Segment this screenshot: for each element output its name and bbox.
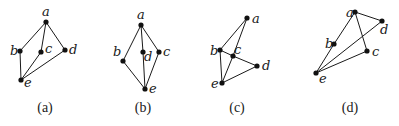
- node-label-c: c: [163, 44, 171, 59]
- node-b: [120, 58, 125, 63]
- node-a: [244, 15, 249, 20]
- node-label-e: e: [24, 75, 32, 90]
- edge-c-d: [233, 56, 257, 66]
- node-e: [142, 86, 147, 91]
- diagram-b: abdce(b): [113, 7, 171, 116]
- node-label-d: d: [69, 42, 77, 57]
- node-label-b: b: [10, 43, 18, 58]
- edge-b-e: [123, 61, 145, 89]
- node-label-a: a: [346, 5, 354, 20]
- node-label-e: e: [211, 76, 219, 91]
- hasse-diagrams-canvas: abcde(a) abdce(b) abcde(c) adbce(d): [0, 0, 399, 126]
- node-label-a: a: [252, 11, 260, 26]
- node-a: [138, 22, 143, 27]
- node-c: [364, 48, 369, 53]
- edge-b-e: [220, 50, 222, 83]
- node-label-e: e: [149, 81, 157, 96]
- node-label-d: d: [380, 22, 388, 37]
- edge-b-e: [20, 51, 21, 80]
- edge-a-d: [141, 25, 143, 52]
- caption-a: (a): [37, 100, 53, 116]
- node-label-b: b: [210, 43, 218, 58]
- node-label-a: a: [42, 4, 50, 19]
- node-e: [18, 77, 23, 82]
- node-c: [156, 49, 161, 54]
- edge-a-d: [355, 12, 382, 21]
- caption-c: (c): [229, 100, 245, 116]
- edge-d-e: [222, 66, 257, 83]
- node-d: [254, 63, 259, 68]
- node-label-d: d: [144, 49, 152, 64]
- node-label-b: b: [113, 44, 121, 59]
- node-e: [219, 80, 224, 85]
- node-e: [313, 70, 318, 75]
- node-label-a: a: [137, 7, 145, 22]
- node-label-c: c: [372, 44, 380, 59]
- node-label-c: c: [234, 42, 242, 57]
- edge-a-c: [141, 25, 159, 52]
- node-c: [38, 49, 43, 54]
- caption-d: (d): [342, 100, 359, 116]
- edge-c-e: [316, 51, 367, 73]
- node-label-c: c: [45, 41, 53, 56]
- edge-a-c: [355, 12, 367, 51]
- diagram-d: adbce(d): [313, 5, 388, 116]
- caption-b: (b): [135, 100, 152, 116]
- node-d: [62, 47, 67, 52]
- node-label-e: e: [319, 71, 327, 86]
- diagram-a: abcde(a): [10, 4, 77, 116]
- diagram-c: abcde(c): [210, 11, 270, 116]
- node-a: [43, 19, 48, 24]
- node-label-b: b: [325, 36, 333, 51]
- node-label-d: d: [262, 58, 270, 73]
- edge-a-b: [123, 25, 141, 61]
